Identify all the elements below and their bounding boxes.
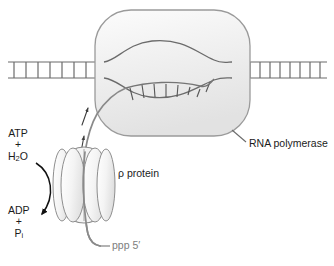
- rna-polymerase-leader-line: [232, 130, 246, 142]
- rho-termination-figure: ATP + H2O ADP + Pi ρ protein RNA polymer…: [0, 0, 334, 266]
- water-formula-main: H: [8, 150, 16, 162]
- atp-substrate-label: ATP + H2O: [8, 127, 28, 163]
- plus-sign-product: +: [8, 216, 30, 227]
- atp-label: ATP: [8, 128, 28, 139]
- rho-subunit-lobe: [61, 148, 85, 222]
- rho-protein-label: ρ protein: [118, 168, 159, 179]
- phosphate-label: Pi: [8, 228, 30, 240]
- adp-product-label: ADP + Pi: [8, 204, 30, 240]
- rna-polymerase-body: [95, 10, 250, 136]
- rna-polymerase-label: RNA polymerase: [249, 138, 328, 149]
- water-label: H2O: [8, 151, 28, 163]
- plus-sign-substrate: +: [8, 139, 28, 150]
- water-formula-tail: O: [20, 150, 28, 162]
- diagram-canvas: [0, 0, 334, 266]
- atp-hydrolysis-arrow: [36, 163, 51, 214]
- phosphate-formula-sub: i: [21, 231, 23, 240]
- rna-five-prime-label: ppp 5′: [112, 240, 140, 251]
- dna-left-duplex: [8, 62, 104, 78]
- adp-label: ADP: [8, 205, 30, 216]
- rho-subunit-lobe: [97, 149, 115, 221]
